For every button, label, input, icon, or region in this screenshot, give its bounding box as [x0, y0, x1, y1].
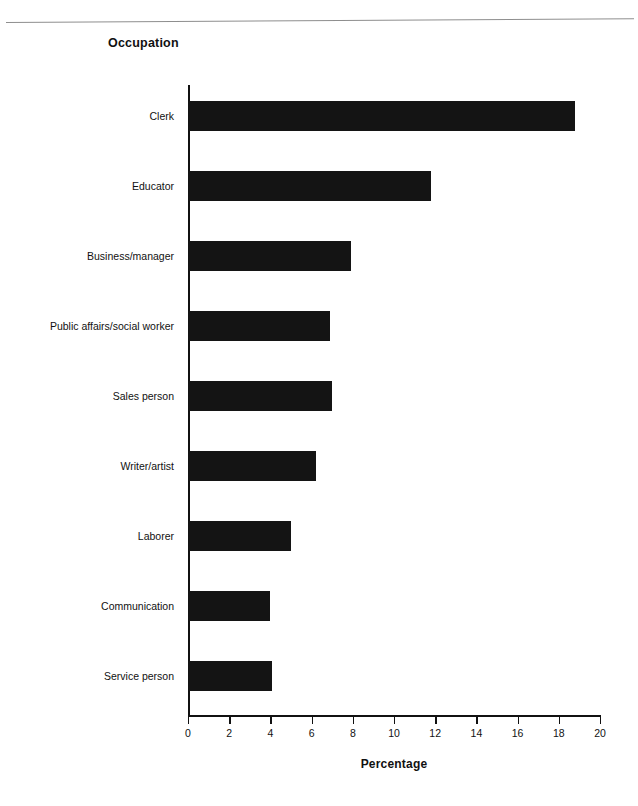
bar-row: Service person — [188, 645, 600, 715]
bar-category-label: Business/manager — [87, 241, 174, 271]
bar — [188, 591, 270, 621]
bar-row: Clerk — [188, 85, 600, 155]
bar — [188, 451, 316, 481]
x-tick — [600, 715, 601, 724]
bar-row: Business/manager — [188, 225, 600, 295]
bar-category-label: Educator — [132, 171, 174, 201]
x-tick — [353, 715, 354, 724]
bar — [188, 381, 332, 411]
x-tick-label: 18 — [544, 727, 574, 739]
chart-title: Occupation — [108, 36, 179, 50]
x-tick — [188, 715, 189, 724]
bar — [188, 311, 330, 341]
bar-category-label: Service person — [104, 661, 174, 691]
bar-row: Communication — [188, 575, 600, 645]
bar — [188, 241, 351, 271]
x-tick — [312, 715, 313, 724]
x-tick-label: 14 — [461, 727, 491, 739]
bar-category-label: Sales person — [113, 381, 174, 411]
bar-row: Public affairs/social worker — [188, 295, 600, 365]
occupation-bar-chart: Occupation ClerkEducatorBusiness/manager… — [0, 0, 638, 806]
x-tick-label: 20 — [585, 727, 615, 739]
x-tick — [476, 715, 477, 724]
bar-row: Writer/artist — [188, 435, 600, 505]
x-axis-title: Percentage — [188, 757, 600, 771]
bar-category-label: Writer/artist — [121, 451, 174, 481]
x-tick-label: 0 — [173, 727, 203, 739]
bar-row: Sales person — [188, 365, 600, 435]
bar — [188, 521, 291, 551]
x-tick-label: 16 — [503, 727, 533, 739]
bar — [188, 101, 575, 131]
plot-area: ClerkEducatorBusiness/managerPublic affa… — [188, 85, 600, 715]
bar — [188, 171, 431, 201]
x-tick — [394, 715, 395, 724]
x-tick — [559, 715, 560, 724]
x-tick-label: 2 — [214, 727, 244, 739]
bar-category-label: Communication — [101, 591, 174, 621]
bar-category-label: Public affairs/social worker — [50, 311, 174, 341]
bar-category-label: Clerk — [149, 101, 174, 131]
bar-row: Educator — [188, 155, 600, 225]
x-tick — [229, 715, 230, 724]
bar-category-label: Laborer — [138, 521, 174, 551]
x-tick-label: 8 — [338, 727, 368, 739]
x-tick — [518, 715, 519, 724]
x-tick-label: 4 — [255, 727, 285, 739]
x-tick — [270, 715, 271, 724]
x-tick — [435, 715, 436, 724]
x-tick-label: 6 — [297, 727, 327, 739]
bar — [188, 661, 272, 691]
bar-row: Laborer — [188, 505, 600, 575]
x-tick-label: 10 — [379, 727, 409, 739]
x-tick-label: 12 — [420, 727, 450, 739]
